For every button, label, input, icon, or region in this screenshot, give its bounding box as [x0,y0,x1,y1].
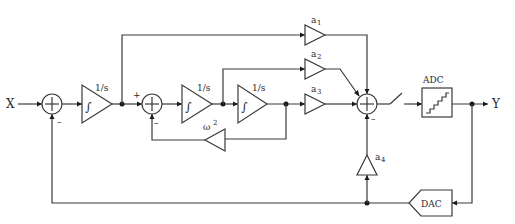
integral-icon: ∫ [185,100,192,114]
integrator-1-label: 1/s [95,83,109,93]
a1-subscript: 1 [317,19,321,27]
omega-superscript: 2 [213,119,217,127]
arrow-icon [300,102,305,107]
sampler-switch [390,93,402,104]
a2-subscript: 2 [317,53,321,61]
arrow-icon [483,102,488,107]
sum1-minus-sign: – [57,117,62,127]
arrow-icon [177,102,182,107]
arrow-icon [137,102,142,107]
gain-a4: a 4 [357,152,386,175]
gain-a3: a 3 [305,84,325,114]
arrow-icon [37,102,42,107]
dac-block: DAC [409,190,452,216]
input-label-x: X [6,97,15,111]
a3-subscript: 3 [317,88,321,96]
gain-a2: a 2 [305,49,325,79]
integrator-3-label: 1/s [252,83,266,93]
arrow-icon [452,201,457,206]
output-label-y: Y [491,97,501,111]
wire-a2-to-sum3 [325,69,359,96]
wire-omega-to-sum2 [152,114,205,140]
adc-label: ADC [422,75,444,85]
arrow-icon [300,33,305,38]
wire-a1-to-sum3 [325,35,367,94]
arrow-icon [365,114,370,119]
arrow-icon [233,102,238,107]
arrow-icon [150,114,155,119]
arrow-icon [300,67,305,72]
sum3-minus-sign: – [371,114,376,124]
block-diagram: X – ∫ 1/s + – ∫ 1/s ∫ [0,0,515,224]
arrow-icon [365,89,370,94]
arrow-icon [417,102,422,107]
arrow-icon [365,175,370,180]
dac-label: DAC [421,199,442,209]
integrator-2: ∫ 1/s [182,83,212,123]
omega-label: ω [203,122,210,132]
integrator-3: ∫ 1/s [238,83,267,123]
gain-omega-squared: ω 2 [203,119,225,151]
wire-output-to-dac [452,104,472,203]
gain-a1: a 1 [305,15,325,45]
integral-icon: ∫ [241,100,248,114]
arrow-icon [352,102,357,107]
sum2-minus-sign: – [154,118,159,128]
integral-icon: ∫ [85,100,92,114]
adc-block: ADC [422,75,452,117]
sum2-plus-sign: + [133,90,141,100]
arrow-icon [77,102,82,107]
integrator-2-label: 1/s [197,83,211,93]
integrator-1: ∫ 1/s [82,83,112,123]
a4-subscript: 4 [381,156,386,164]
arrow-icon [50,114,55,119]
wire-dac-to-sum1 [52,114,409,203]
